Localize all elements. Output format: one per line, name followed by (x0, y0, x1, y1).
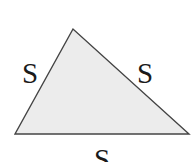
sss-triangle-diagram: S S S (0, 0, 196, 162)
left-side-label: S (22, 57, 38, 89)
triangle-shape (15, 29, 189, 134)
right-side-label: S (137, 57, 153, 89)
bottom-side-label: S (94, 143, 110, 162)
